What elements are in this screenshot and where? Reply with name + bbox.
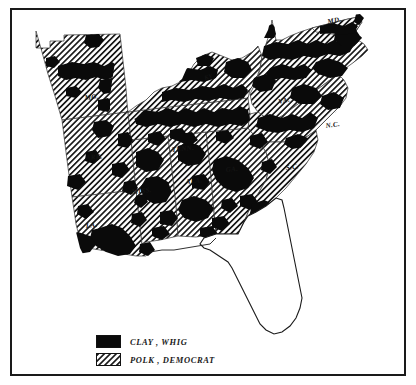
legend-label-polk-democrat: POLK , DEMOCRAT xyxy=(130,355,215,365)
map-legend: CLAY , WHIG POLK , DEMOCRAT xyxy=(96,334,216,370)
state-label-nc: N.C. xyxy=(324,120,340,130)
state-label-ga: GA. xyxy=(225,165,238,174)
election-map: MO. ARK. LA. MISS. ALA. TENN. KY. GA. S.… xyxy=(0,0,416,385)
legend-swatch-polk-democrat xyxy=(96,353,121,366)
legend-item-polk-democrat: POLK , DEMOCRAT xyxy=(96,352,216,367)
state-label-mo: MO. xyxy=(83,93,99,103)
legend-item-clay-whig: CLAY , WHIG xyxy=(96,334,216,349)
state-label-la: LA. xyxy=(84,221,97,230)
map-page: MO. ARK. LA. MISS. ALA. TENN. KY. GA. S.… xyxy=(0,0,416,385)
legend-label-clay-whig: CLAY , WHIG xyxy=(130,337,187,347)
legend-swatch-clay-whig xyxy=(96,335,121,348)
